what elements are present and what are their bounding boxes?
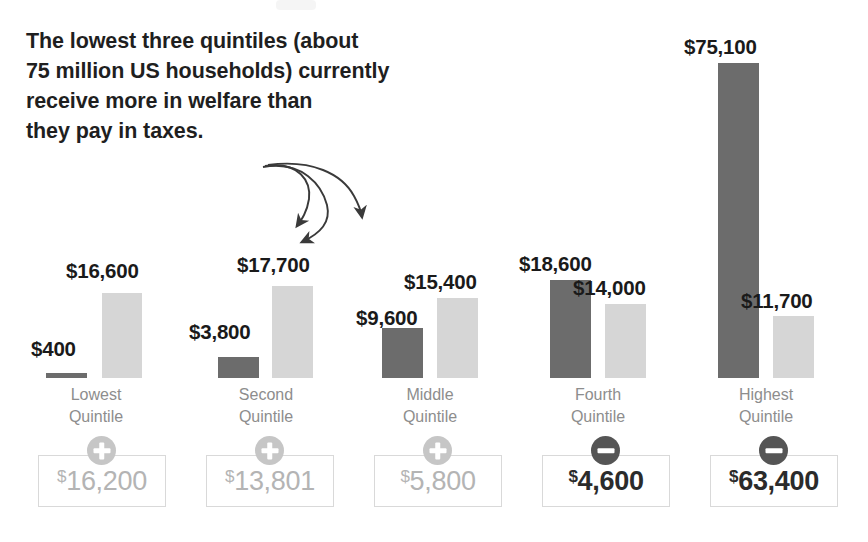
category-label-middle-line1: Middle bbox=[380, 384, 480, 406]
currency-symbol: $ bbox=[400, 467, 409, 486]
bar-welfare-middle bbox=[437, 298, 478, 378]
bar-label-taxes-fourth: $18,600 bbox=[519, 252, 592, 276]
bar-label-welfare-second: $17,700 bbox=[237, 253, 310, 277]
chart-canvas: The lowest three quintiles (about 75 mil… bbox=[0, 0, 868, 542]
bar-welfare-lowest bbox=[102, 293, 142, 378]
category-label-fourth-line2: Quintile bbox=[548, 406, 648, 428]
bar-taxes-lowest bbox=[46, 373, 87, 378]
minus-circle-icon-fourth bbox=[591, 436, 620, 465]
bar-label-welfare-lowest: $16,600 bbox=[66, 259, 139, 283]
minus-bar-h bbox=[597, 448, 614, 454]
plus-bar-v bbox=[267, 442, 273, 459]
bar-label-taxes-highest: $75,100 bbox=[684, 35, 757, 59]
plus-circle-icon-second bbox=[255, 436, 284, 465]
currency-symbol: $ bbox=[57, 467, 66, 486]
currency-symbol: $ bbox=[225, 467, 234, 486]
bar-label-taxes-second: $3,800 bbox=[189, 320, 251, 344]
category-label-second: Second Quintile bbox=[216, 384, 316, 428]
category-label-lowest-line2: Quintile bbox=[46, 406, 146, 428]
plus-circle-icon-middle bbox=[423, 436, 452, 465]
currency-symbol: $ bbox=[568, 467, 577, 486]
bar-welfare-highest bbox=[773, 316, 814, 378]
currency-symbol: $ bbox=[729, 467, 738, 486]
plus-circle-icon-lowest bbox=[87, 436, 116, 465]
net-value-lowest: $16,200 bbox=[57, 466, 147, 497]
category-label-fourth-line1: Fourth bbox=[548, 384, 648, 406]
bar-welfare-fourth bbox=[605, 304, 646, 378]
net-value-second-number: 13,801 bbox=[234, 466, 315, 496]
category-label-fourth: Fourth Quintile bbox=[548, 384, 648, 428]
bar-welfare-second bbox=[272, 286, 313, 378]
category-label-middle: Middle Quintile bbox=[380, 384, 480, 428]
category-label-second-line1: Second bbox=[216, 384, 316, 406]
category-label-highest: Highest Quintile bbox=[716, 384, 816, 428]
net-value-fourth: $4,600 bbox=[568, 466, 643, 497]
category-label-lowest: Lowest Quintile bbox=[46, 384, 146, 428]
net-value-highest: $63,400 bbox=[729, 466, 819, 497]
bar-label-welfare-fourth: $14,000 bbox=[573, 276, 646, 300]
category-label-highest-line1: Highest bbox=[716, 384, 816, 406]
plus-bar-v bbox=[435, 442, 441, 459]
bar-label-taxes-middle: $9,600 bbox=[356, 306, 418, 330]
net-value-highest-number: 63,400 bbox=[738, 466, 819, 496]
net-value-lowest-number: 16,200 bbox=[66, 466, 147, 496]
net-value-second: $13,801 bbox=[225, 466, 315, 497]
category-label-lowest-line1: Lowest bbox=[46, 384, 146, 406]
bar-taxes-second bbox=[218, 357, 259, 378]
bar-label-welfare-highest: $11,700 bbox=[741, 289, 813, 313]
net-value-middle-number: 5,800 bbox=[410, 466, 476, 496]
category-label-middle-line2: Quintile bbox=[380, 406, 480, 428]
bar-label-taxes-lowest: $400 bbox=[31, 337, 76, 361]
category-label-second-line2: Quintile bbox=[216, 406, 316, 428]
bar-taxes-highest bbox=[718, 63, 759, 378]
category-label-highest-line2: Quintile bbox=[716, 406, 816, 428]
minus-bar-h bbox=[765, 448, 782, 454]
plus-bar-v bbox=[99, 442, 105, 459]
net-value-fourth-number: 4,600 bbox=[578, 466, 644, 496]
net-value-middle: $5,800 bbox=[400, 466, 475, 497]
bar-label-welfare-middle: $15,400 bbox=[404, 270, 477, 294]
bar-taxes-middle bbox=[382, 328, 423, 378]
minus-circle-icon-highest bbox=[759, 436, 788, 465]
